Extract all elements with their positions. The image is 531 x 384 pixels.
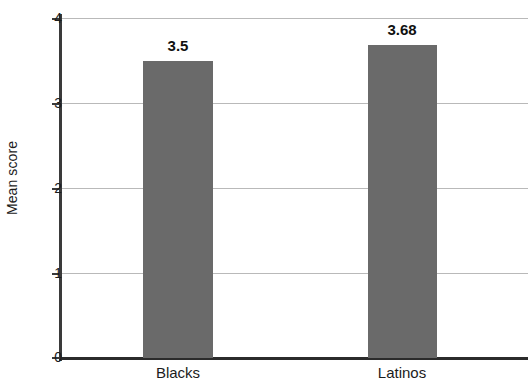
bar-value-latinos: 3.68: [357, 22, 447, 37]
bar-value-blacks: 3.5: [133, 38, 223, 53]
y-tick-label-0: 0: [20, 350, 62, 364]
y-tick-label-4: 4: [20, 11, 62, 25]
gridline-2: [62, 188, 528, 189]
y-tick-label-3: 3: [20, 96, 62, 110]
bar-blacks[interactable]: [143, 61, 213, 358]
gridline-3: [62, 103, 528, 104]
plot-area: [62, 18, 528, 358]
y-tick-label-1: 1: [20, 266, 62, 280]
gridline-1: [62, 273, 528, 274]
y-axis-ticks: 4 3 2 1 0: [0, 0, 62, 384]
x-axis-line: [59, 357, 528, 360]
gridline-4: [62, 18, 528, 19]
category-label-blacks: Blacks: [133, 365, 223, 380]
category-label-latinos: Latinos: [357, 365, 447, 380]
y-tick-label-2: 2: [20, 181, 62, 195]
bar-latinos[interactable]: [368, 45, 437, 358]
bar-chart: Mean score 4 3 2 1 0 3.5 Blacks 3.68 Lat…: [0, 0, 531, 384]
